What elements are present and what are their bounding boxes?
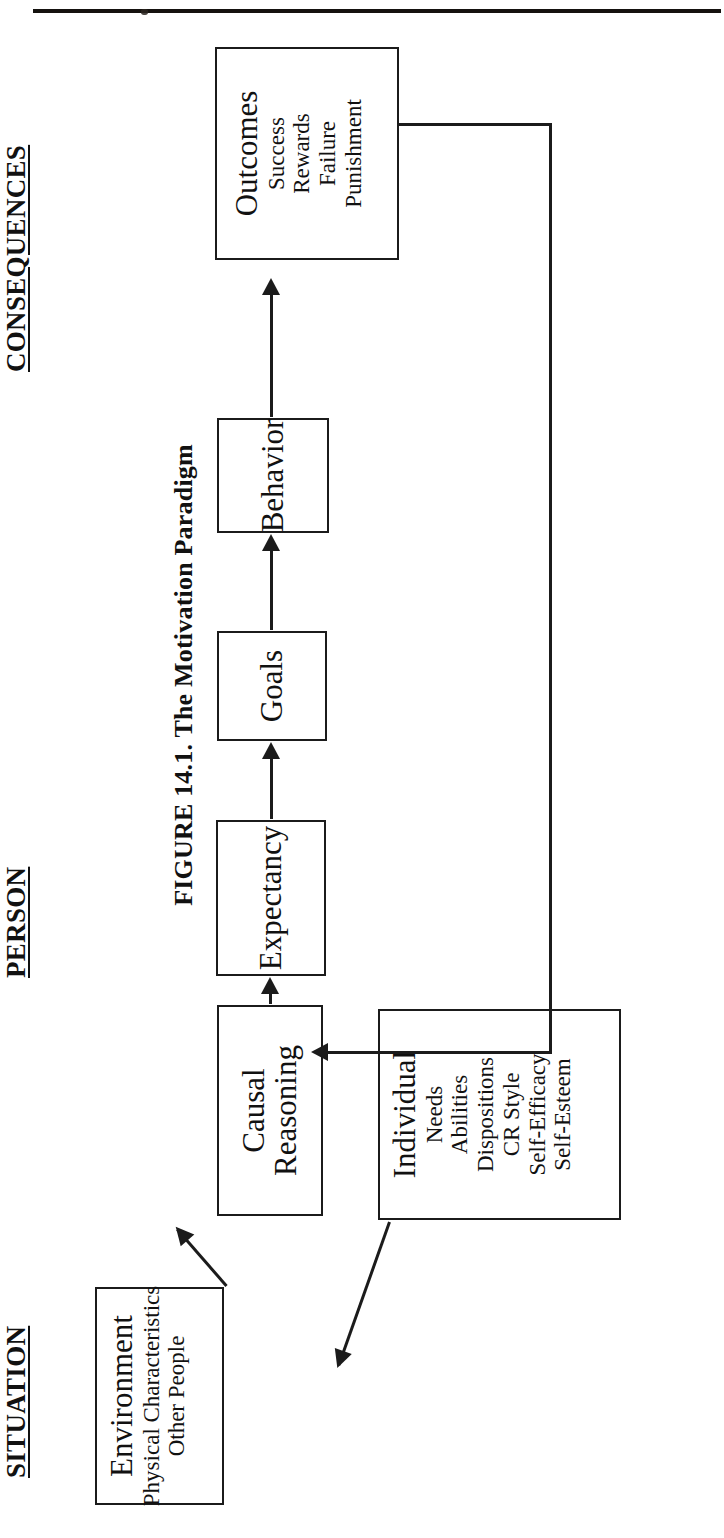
- box-environment: Environment Physical Characteristics Oth…: [95, 1287, 224, 1505]
- box-individual-item: Self-Efficacy: [525, 1053, 551, 1175]
- box-expectancy: Expectancy: [216, 820, 326, 976]
- arrow-environment-to-causal-reasoning: [176, 1228, 227, 1287]
- box-behavior: Behavior: [217, 418, 329, 533]
- box-environment-items: Physical Characteristics Other People: [139, 1286, 191, 1506]
- box-goals: Goals: [217, 631, 327, 741]
- box-behavior-title: Behavior: [257, 419, 289, 533]
- box-environment-item: Physical Characteristics: [139, 1286, 165, 1506]
- figure-diagram: SITUATION PERSON CONSEQUENCES Environmen…: [0, 0, 724, 1538]
- box-individual-item: Dispositions: [473, 1057, 499, 1172]
- section-label-person: PERSON: [1, 867, 32, 978]
- box-outcomes-item: Success: [264, 117, 290, 190]
- box-goals-title: Goals: [256, 650, 288, 722]
- box-causal-reasoning: Causal Reasoning: [217, 1005, 323, 1216]
- feedback-loop-segment-down: [398, 123, 552, 126]
- feedback-loop-segment-across: [549, 123, 552, 1054]
- box-individual-items: Needs Abilities Dispositions CR Style Se…: [422, 1053, 577, 1175]
- section-label-situation: SITUATION: [1, 1326, 32, 1478]
- box-outcomes: Outcomes Success Rewards Failure Punishm…: [215, 47, 399, 260]
- section-label-consequences: CONSEQUENCES: [1, 145, 32, 372]
- box-causal-reasoning-title-line1: Causal: [238, 1068, 270, 1152]
- connector-behavior-to-outcomes: [270, 295, 273, 417]
- box-individual-item: Self-Esteem: [550, 1058, 576, 1170]
- box-outcomes-item: Punishment: [341, 99, 367, 208]
- figure-caption: FIGURE 14.1. The Motivation Paradigm: [169, 444, 199, 906]
- box-expectancy-title: Expectancy: [255, 826, 287, 971]
- box-causal-reasoning-title-line2: Reasoning: [270, 1045, 302, 1176]
- box-outcomes-item: Rewards: [289, 113, 315, 193]
- arrowhead-feedback-to-causal-reasoning: [311, 1043, 328, 1061]
- arrow-individual-to-causal-reasoning: [337, 1221, 391, 1365]
- box-environment-title: Environment: [106, 1315, 138, 1477]
- box-outcomes-item: Failure: [315, 121, 341, 186]
- connector-goals-to-behavior: [270, 549, 273, 630]
- arrowhead-causal-to-expectancy: [261, 977, 279, 994]
- box-individual-item: Needs: [422, 1086, 448, 1143]
- box-individual-item: CR Style: [499, 1073, 525, 1157]
- feedback-loop-segment-up: [325, 1051, 552, 1054]
- arrowhead-behavior-to-outcomes: [262, 278, 280, 295]
- box-individual-title: Individual: [389, 1051, 421, 1178]
- box-outcomes-title: Outcomes: [231, 91, 263, 217]
- arrowhead-goals-to-behavior: [262, 534, 280, 551]
- connector-expectancy-to-goals: [270, 757, 273, 819]
- box-outcomes-items: Success Rewards Failure Punishment: [264, 99, 367, 208]
- arrowhead-expectancy-to-goals: [262, 742, 280, 759]
- connector-causal-to-expectancy: [269, 993, 272, 1004]
- box-environment-item: Other People: [164, 1336, 190, 1457]
- box-individual: Individual Needs Abilities Dispositions …: [378, 1009, 621, 1220]
- box-individual-item: Abilities: [447, 1075, 473, 1154]
